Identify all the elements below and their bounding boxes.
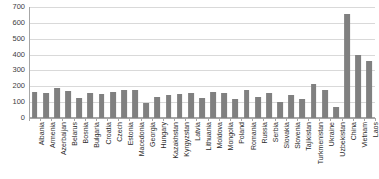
x-axis-tick-mark <box>62 118 63 121</box>
bar <box>76 98 82 118</box>
bar-slot <box>241 7 252 118</box>
x-axis-category-label: Latvia <box>194 122 201 141</box>
x-axis-category-label: Albania <box>38 122 45 145</box>
x-axis-tick-mark <box>51 118 52 121</box>
bar <box>87 93 93 118</box>
bar-slot <box>263 7 274 118</box>
x-axis-tick-mark <box>230 118 231 121</box>
x-axis-tick-mark <box>107 118 108 121</box>
x-axis-tick-mark <box>118 118 119 121</box>
x-axis-tick-mark <box>286 118 287 121</box>
x-axis-tick-marks <box>29 118 375 121</box>
bar <box>99 94 105 118</box>
bar-slot <box>74 7 85 118</box>
bar <box>43 93 49 118</box>
x-axis-tick-mark <box>364 118 365 121</box>
bar-slot <box>286 7 297 118</box>
bar <box>143 103 149 118</box>
x-axis-tick-mark <box>275 118 276 121</box>
bar <box>300 99 306 118</box>
x-axis-category-label: Moldova <box>216 122 223 148</box>
x-axis-category-label: Hungary <box>160 122 167 148</box>
bar-slot <box>252 7 263 118</box>
bar-slot <box>330 7 341 118</box>
x-axis-category-label: Macedonia <box>138 122 145 156</box>
bar <box>132 90 138 118</box>
bar-slot <box>29 7 40 118</box>
x-axis-tick-mark <box>40 118 41 121</box>
bar <box>221 93 227 118</box>
x-axis-category-label: Turkmenistan <box>317 122 324 164</box>
bar-slot <box>364 7 375 118</box>
bar-slot <box>152 7 163 118</box>
x-axis-category-label: Mongolia <box>227 122 234 150</box>
x-axis-category-label: Tajikistan <box>305 122 312 151</box>
bar <box>199 98 205 118</box>
bar <box>166 95 172 118</box>
bar-slot <box>163 7 174 118</box>
x-axis-tick-mark <box>163 118 164 121</box>
x-axis-tick-mark <box>208 118 209 121</box>
bar-slot <box>297 7 308 118</box>
x-axis-category-label: China <box>350 122 357 140</box>
y-axis-tick-label: 0 <box>0 114 25 122</box>
bar <box>233 99 239 118</box>
bar-slot <box>196 7 207 118</box>
x-axis-category-label: Poland <box>238 122 245 144</box>
x-axis-tick-mark <box>141 118 142 121</box>
x-axis-category-label: Czech <box>116 122 123 142</box>
x-axis-category-label: Estonia <box>127 122 134 145</box>
x-axis-tick-mark <box>196 118 197 121</box>
bar <box>288 95 294 118</box>
bar <box>54 88 60 118</box>
x-axis-category-label: Laos <box>372 122 379 137</box>
bar-slot <box>96 7 107 118</box>
x-axis-category-label: Georgia <box>149 122 156 147</box>
bar-series <box>29 7 375 118</box>
y-axis-tick-labels: 0100200300400500600700 <box>0 0 27 179</box>
bar-slot <box>353 7 364 118</box>
x-axis-category-label: Bulgaria <box>93 122 100 148</box>
x-axis-tick-mark <box>353 118 354 121</box>
bar-slot <box>219 7 230 118</box>
y-axis-tick-label: 600 <box>0 19 25 27</box>
x-axis-category-label: Uzbekistan <box>339 122 346 157</box>
x-axis-category-label: Kyrgyzstan <box>183 122 190 157</box>
bar <box>154 97 160 118</box>
x-axis-tick-mark <box>375 118 376 121</box>
x-axis-tick-mark <box>85 118 86 121</box>
bar <box>188 93 194 118</box>
bar-slot <box>141 7 152 118</box>
x-axis-category-label: Belarus <box>71 122 78 146</box>
x-axis-category-label: Slovenia <box>294 122 301 149</box>
x-axis-category-label: Azerbaijan <box>60 122 67 155</box>
y-axis-tick-label: 300 <box>0 66 25 74</box>
bar <box>255 97 261 118</box>
bar-slot <box>118 7 129 118</box>
x-axis-category-label: Lithuania <box>205 122 212 150</box>
y-axis-tick-label: 100 <box>0 98 25 106</box>
x-axis-category-label: Croatia <box>105 122 112 145</box>
x-axis-tick-mark <box>308 118 309 121</box>
bar-slot <box>107 7 118 118</box>
bar <box>266 93 272 118</box>
x-axis-tick-mark <box>241 118 242 121</box>
x-axis-tick-mark <box>129 118 130 121</box>
x-axis-category-label: Bosnia <box>82 122 89 143</box>
bar-slot <box>208 7 219 118</box>
bar-slot <box>174 7 185 118</box>
bar <box>210 92 216 118</box>
x-axis-tick-mark <box>174 118 175 121</box>
bar <box>311 84 317 118</box>
bar <box>177 94 183 118</box>
bar-slot <box>129 7 140 118</box>
y-axis-tick-label: 200 <box>0 82 25 90</box>
x-axis-tick-mark <box>185 118 186 121</box>
x-axis-category-label: Romania <box>250 122 257 150</box>
bar-slot <box>62 7 73 118</box>
x-axis-tick-mark <box>29 118 30 121</box>
bar <box>355 55 361 118</box>
bar-slot <box>342 7 353 118</box>
bar-slot <box>40 7 51 118</box>
x-axis-tick-mark <box>330 118 331 121</box>
